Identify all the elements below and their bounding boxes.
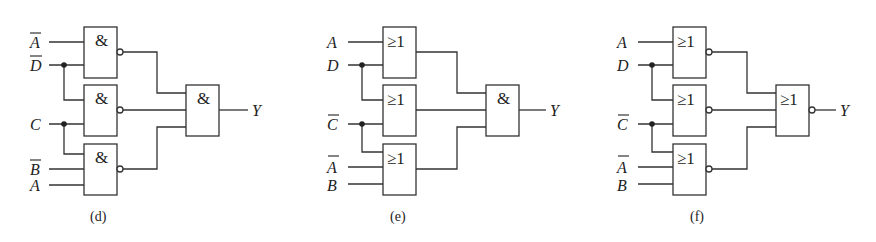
input-label-a: A (616, 34, 627, 51)
wire (64, 124, 84, 154)
input-label-b: B (327, 177, 337, 194)
gate-symbol: ≥1 (780, 90, 798, 109)
inversion-bubble (117, 166, 123, 172)
junction-dot (359, 121, 365, 127)
junction-dot (649, 121, 655, 127)
input-label-b: B (617, 177, 627, 194)
gate-symbol: & (497, 89, 510, 108)
caption-f: (f) (690, 209, 704, 225)
input-label-c: C (30, 116, 41, 133)
input-label-a-bar: A (29, 34, 40, 51)
gate-symbol: & (95, 148, 108, 167)
circuit-f: A D C A B ≥1 ≥1 ≥1 ≥1 Y (f) (616, 27, 851, 225)
wire (416, 127, 486, 169)
wire (123, 52, 186, 93)
inversion-bubble (117, 107, 123, 113)
input-label-a: A (326, 34, 337, 51)
wire (652, 124, 673, 152)
output-label-y: Y (840, 102, 851, 119)
inversion-bubble (706, 49, 712, 55)
wire (712, 52, 776, 93)
inversion-bubble (809, 107, 815, 113)
circuit-d: A D C B A & & & & Y (29, 27, 263, 225)
gate-symbol: & (95, 89, 108, 108)
gate-symbol: & (95, 31, 108, 50)
caption-d: (d) (90, 209, 107, 225)
wire (652, 65, 673, 100)
junction-dot (359, 62, 365, 68)
input-label-c-bar: C (617, 116, 628, 133)
wire (123, 127, 186, 169)
junction-dot (61, 121, 67, 127)
input-label-a-bar: A (616, 159, 627, 176)
input-label-b-bar: B (30, 161, 40, 178)
gate-symbol: ≥1 (387, 149, 405, 168)
inversion-bubble (117, 49, 123, 55)
wire (362, 124, 383, 152)
wire (416, 52, 486, 93)
logic-circuits-figure: A D C B A & & & & Y (0, 0, 876, 242)
output-label-y: Y (550, 102, 561, 119)
input-label-a: A (29, 177, 40, 194)
input-label-d: D (326, 57, 339, 74)
caption-e: (e) (390, 209, 406, 225)
junction-dot (649, 62, 655, 68)
wire (712, 127, 776, 169)
gate-symbol: ≥1 (677, 32, 695, 51)
output-label-y: Y (252, 102, 263, 119)
input-label-a-bar: A (326, 159, 337, 176)
junction-dot (61, 62, 67, 68)
gate-symbol: ≥1 (677, 90, 695, 109)
gate-symbol: & (197, 89, 210, 108)
wire (64, 65, 84, 100)
input-label-d-bar: D (29, 57, 42, 74)
gate-symbol: ≥1 (387, 32, 405, 51)
gate-symbol: ≥1 (387, 90, 405, 109)
circuit-e: A D C A B ≥1 ≥1 ≥1 & Y (e) (326, 27, 561, 225)
input-label-c-bar: C (327, 116, 338, 133)
gate-symbol: ≥1 (677, 149, 695, 168)
input-label-d: D (616, 57, 629, 74)
inversion-bubble (706, 166, 712, 172)
inversion-bubble (706, 107, 712, 113)
wire (362, 65, 383, 100)
